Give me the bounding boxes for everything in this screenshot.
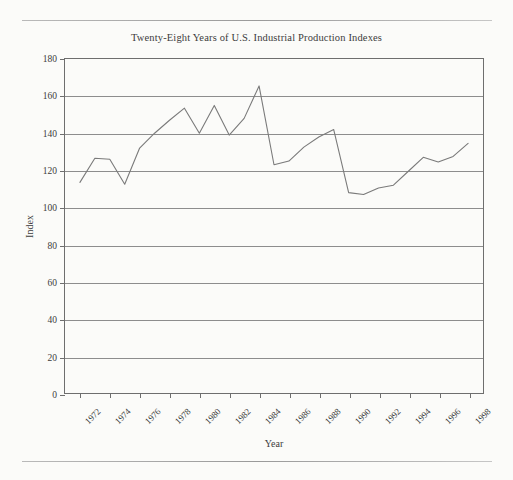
x-tick-mark-1974 (110, 393, 111, 398)
y-axis-title: Index (18, 58, 41, 394)
x-tick-mark-1986 (290, 393, 291, 398)
x-tick-label-1990: 1990 (353, 406, 373, 426)
x-tick-label-1992: 1992 (383, 406, 403, 426)
x-tick-label-1996: 1996 (443, 406, 463, 426)
y-tick-label-80: 80 (48, 241, 58, 251)
figure-industrial-production: Twenty-Eight Years of U.S. Industrial Pr… (0, 24, 513, 454)
x-tick-mark-1990 (350, 393, 351, 398)
data-series-line (65, 59, 483, 393)
x-tick-mark-1976 (140, 393, 141, 398)
x-tick-mark-1984 (260, 393, 261, 398)
y-tick-label-60: 60 (48, 278, 58, 288)
x-tick-mark-1992 (380, 393, 381, 398)
plot-area: 020406080100120140160180 197219741976197… (64, 58, 484, 394)
y-tick-mark-0 (60, 395, 65, 396)
x-tick-mark-1978 (170, 393, 171, 398)
y-tick-label-120: 120 (43, 166, 57, 176)
y-tick-label-100: 100 (43, 203, 57, 213)
x-tick-label-1984: 1984 (263, 406, 283, 426)
chart-title: Twenty-Eight Years of U.S. Industrial Pr… (0, 32, 513, 43)
x-tick-mark-1996 (440, 393, 441, 398)
x-tick-mark-1972 (80, 393, 81, 398)
x-tick-mark-1982 (230, 393, 231, 398)
x-tick-label-1980: 1980 (203, 406, 223, 426)
y-tick-label-0: 0 (52, 390, 57, 400)
x-tick-label-1982: 1982 (233, 406, 253, 426)
x-tick-label-1998: 1998 (473, 406, 493, 426)
x-tick-mark-1998 (470, 393, 471, 398)
x-tick-label-1972: 1972 (83, 406, 103, 426)
x-tick-mark-1988 (320, 393, 321, 398)
y-tick-label-180: 180 (43, 54, 57, 64)
x-tick-label-1988: 1988 (323, 406, 343, 426)
x-tick-label-1994: 1994 (413, 406, 433, 426)
x-axis-title: Year (64, 438, 484, 449)
x-tick-mark-1980 (200, 393, 201, 398)
y-tick-label-160: 160 (43, 91, 57, 101)
y-axis-title-label: Index (24, 215, 35, 238)
y-tick-label-40: 40 (48, 315, 58, 325)
y-tick-label-140: 140 (43, 129, 57, 139)
page-rule-top (22, 20, 492, 21)
x-tick-label-1986: 1986 (293, 406, 313, 426)
y-tick-label-20: 20 (48, 353, 58, 363)
x-tick-label-1976: 1976 (143, 406, 163, 426)
page-rule-bottom (22, 461, 492, 462)
x-tick-mark-1994 (410, 393, 411, 398)
x-tick-label-1974: 1974 (113, 406, 133, 426)
x-tick-label-1978: 1978 (173, 406, 193, 426)
